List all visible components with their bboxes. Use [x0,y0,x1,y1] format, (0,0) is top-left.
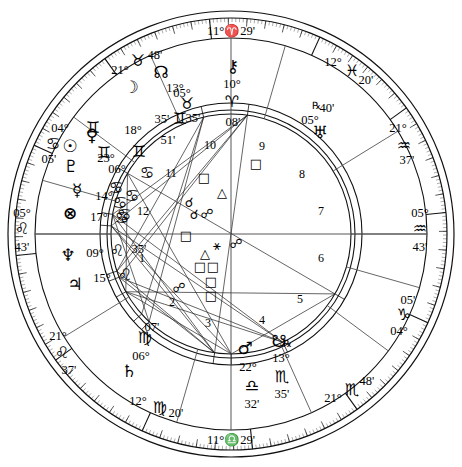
house-9-cusp-minute: 20' [359,74,374,87]
planet-saturn-minute: 07' [145,321,160,334]
mc-label: 11°♈29' [207,25,255,38]
planet-south-node-retrograde: ℞ [283,339,292,349]
planet-neptune-minute: 35' [132,243,147,256]
aspect-square-1: □ [198,171,210,184]
house-number-5: 5 [297,293,303,305]
planet-pluto-glyph: ♇ [63,158,78,175]
planet-sun-minute: 51' [161,134,176,147]
planet-sun-glyph: ☉ [62,138,77,155]
aspect-square-2: □ [250,157,262,170]
planet-north-node-minute: 35' [186,112,201,125]
planet-north-node-glyph: ☊ [153,64,168,81]
planet-pluto-degree: 06° [108,163,126,176]
house-number-7: 7 [318,205,324,217]
house-9-cusp-degree: 12° [324,56,342,69]
house-8-cusp-minute: 37' [400,154,415,167]
aspect-square-7: □ [205,289,217,302]
house-2-cusp-degree: 21° [49,330,67,343]
ic-label: 11°♎29' [207,434,255,447]
planet-chiron-sign: ♈ [225,94,239,110]
house-12-cusp-degree: 04° [51,122,69,135]
house-12-cusp-sign: ♋ [46,136,60,152]
house-5-cusp-degree: 21° [324,392,342,405]
house-5-cusp-sign: ♏ [345,382,359,398]
planet-venus-degree: 18° [124,124,142,137]
cancer-sign-glyph-c: ♋ [115,210,129,226]
planet-pluto-sign: ♋ [140,165,154,181]
asc-minute: 43' [15,241,30,254]
house-number-12: 12 [137,205,149,217]
dsc-degree: 05° [411,207,429,220]
asc-sign: ♌ [15,221,29,237]
planet-north-node-degree: 13° [166,82,184,95]
house-number-11: 11 [165,167,177,179]
house-number-6: 6 [318,252,324,264]
house-6-cusp-sign: ♑ [397,307,411,323]
aspect-square-5: □ [207,260,219,273]
planet-south-node-minute: 35' [275,388,290,401]
house-number-8: 8 [299,168,305,180]
house-number-4: 4 [259,314,265,326]
aspect-trine-1: △ [217,186,227,199]
dsc-minute: 43' [413,241,428,254]
planet-neptune-glyph: ♆ [60,247,75,264]
house-2-cusp-sign: ♌ [55,345,69,361]
aspect-opposition-1: ☍ [200,207,213,220]
house-6-cusp-degree: 04° [390,325,408,338]
house-number-3: 3 [205,317,211,329]
house-number-10: 10 [204,139,216,151]
planet-jupiter-sign: ♌ [118,267,132,283]
planet-mars-degree: 22° [239,361,257,374]
house-8-cusp-degree: 21° [389,122,407,135]
planet-neptune-sign: ♌ [110,243,124,259]
planet-mars-minute: 32' [245,398,260,411]
house-3-cusp-degree: 12° [129,395,147,408]
planet-saturn-glyph: ♄ [121,363,136,380]
planet-moon-glyph: ☽ [123,79,138,96]
house-8-cusp-sign: ♒ [397,138,411,154]
house-number-2: 2 [169,296,175,308]
house-11-cusp-sign: ♉ [131,53,145,69]
planet-sun-sign: ♊ [132,144,146,160]
planet-chiron-minute: 08' [226,116,241,129]
house-9-cusp-sign: ♓ [345,63,359,79]
planet-uranus-minute: 40' [320,102,335,115]
aspect-square-6: □ [205,275,217,288]
house-3-cusp-minute: 20' [169,407,184,420]
planet-part-of-fortune-glyph: ⊗ [63,205,77,222]
planet-uranus-degree: 05° [301,114,319,127]
planet-mercury-glyph: ☿ [72,182,82,199]
aspect-conjunction-2: ☌ [190,208,199,221]
planet-saturn-degree: 06° [132,350,150,363]
planet-uranus-retrograde: ℞ [312,101,321,111]
house-11-cusp-minute: 48' [148,49,163,62]
house-11-cusp-degree: 21° [111,64,129,77]
house-2-cusp-minute: 37' [62,364,77,377]
planet-chiron-degree: 10° [223,78,241,91]
house-12-cusp-minute: 05' [42,153,57,166]
aspect-square-3: □ [180,229,192,242]
dsc-sign: ♒ [413,221,427,237]
planet-part-of-fortune-degree: 17° [90,211,108,224]
aspect-sextile-1: ⚹ [213,239,221,252]
planet-mars-glyph: ♂ [237,340,252,357]
gemini-sign-glyph-a: ♊ [86,120,100,136]
house-number-9: 9 [259,140,265,152]
planet-jupiter-glyph: ♃ [67,276,82,293]
planet-north-node-sign: ♉ [180,96,194,112]
aspect-opposition-3: ☍ [172,281,185,294]
gemini-sign-glyph-b: ♊ [97,145,111,161]
planet-south-node-degree: 13° [272,352,290,365]
aspect-square-4: □ [194,260,206,273]
house-6-cusp-minute: 05' [401,294,416,307]
planet-south-node-sign: ♏ [275,369,289,385]
house-3-cusp-sign: ♍ [153,400,167,416]
planet-moon-minute: 35' [155,113,170,126]
house-5-cusp-minute: 48' [360,375,375,388]
aspect-opposition-2: ☍ [229,237,242,250]
planet-jupiter-degree: 15° [93,272,111,285]
asc-degree: 05° [13,207,31,220]
planet-chiron-glyph: ⚷ [227,58,239,75]
planet-mars-sign: ♎ [245,378,259,394]
planet-neptune-degree: 09° [86,247,104,260]
